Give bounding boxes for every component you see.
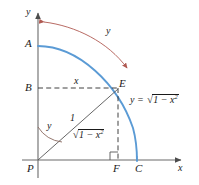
radical-sign-triangle: √1 − x2 [72, 129, 104, 140]
radical-sign-equation: √1 − x2 [146, 94, 178, 105]
radical-bar-triangle: 1 − x2 [78, 129, 104, 140]
arc-length-annotation-arrow [44, 22, 127, 68]
x-axis-label: x [178, 163, 182, 173]
segment-label-x: x [74, 76, 78, 86]
point-label-p: P [27, 163, 34, 174]
point-label-a: A [25, 38, 32, 49]
right-angle-marker [110, 152, 118, 160]
angle-label-y: y [47, 121, 51, 131]
curve-equation-lhs: y = [130, 94, 144, 105]
point-label-e: E [119, 78, 126, 89]
curve-equation-label: y = √1 − x2 [130, 94, 179, 105]
radicand-exponent-equation: 2 [174, 93, 177, 100]
figure-container: y x A B E P F C x 1 y y √1 − x2 y = √1 −… [0, 0, 199, 185]
y-axis-label: y [26, 7, 30, 17]
point-label-b: B [25, 82, 32, 93]
point-label-f: F [113, 163, 120, 174]
radicand-equation: 1 − x [153, 94, 174, 105]
hypotenuse-label-1: 1 [70, 113, 75, 123]
radical-bar-equation: 1 − x2 [152, 94, 178, 105]
triangle-base-label: √1 − x2 [72, 129, 104, 140]
point-label-c: C [135, 163, 142, 174]
radicand-exponent-triangle: 2 [100, 128, 103, 135]
unit-circle-curve [38, 46, 137, 161]
radicand-triangle: 1 − x [79, 129, 100, 140]
arc-arrow-label-y: y [106, 26, 110, 36]
